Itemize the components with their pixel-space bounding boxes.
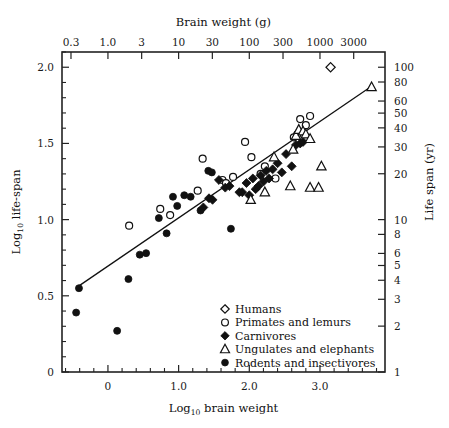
- data-point: [125, 276, 132, 283]
- right-tick-label-14: 1: [394, 366, 401, 378]
- top-tick-label-5: 100: [239, 36, 259, 48]
- data-point: [260, 187, 269, 196]
- x-tick-label-1: 1.0: [170, 380, 187, 392]
- data-point: [287, 162, 296, 171]
- legend-marker-ungulates: [220, 344, 229, 352]
- right-tick-label-12: 3: [394, 293, 401, 305]
- right-tick-label-9: 6: [394, 247, 401, 259]
- legend-marker-primates: [222, 319, 229, 326]
- right-tick-label-11: 4: [394, 274, 401, 286]
- top-tick-label-4: 30: [206, 36, 219, 48]
- x-tick-label-2: 2.0: [241, 380, 258, 392]
- right-tick-label-0: 100: [394, 61, 414, 73]
- right-tick-label-4: 40: [394, 122, 407, 134]
- legend-item-humans[interactable]: Humans: [221, 303, 282, 316]
- y-tick-label-4: 2.0: [37, 61, 54, 73]
- legend-item-primates[interactable]: Primates and lemurs: [222, 316, 352, 329]
- right-tick-label-5: 30: [394, 141, 407, 153]
- y-axis-left: 00.51.01.52.0: [37, 52, 69, 378]
- data-point: [199, 155, 206, 162]
- data-point: [297, 116, 304, 123]
- legend-marker-rodents: [222, 359, 229, 366]
- right-axis-title-text: Life span (yr): [422, 143, 436, 221]
- right-tick-label-8: 8: [394, 228, 401, 240]
- top-axis-title: Brain weight (g): [176, 15, 271, 29]
- data-point: [367, 82, 376, 91]
- legend-label-rodents: Rodents and insectivores: [235, 357, 376, 370]
- right-tick-label-2: 60: [394, 95, 407, 107]
- data-point: [75, 285, 82, 292]
- y-axis-right: 100806050403020108654321: [378, 61, 414, 378]
- top-tick-label-0: 0.3: [63, 36, 80, 48]
- data-point: [248, 154, 255, 161]
- right-tick-label-6: 20: [394, 168, 407, 180]
- data-point: [187, 193, 194, 200]
- data-point: [169, 193, 176, 200]
- data-point: [227, 225, 234, 232]
- top-tick-label-6: 300: [273, 36, 293, 48]
- data-point: [114, 327, 121, 334]
- x-tick-label-0: 0: [105, 380, 112, 392]
- top-tick-label-2: 3: [138, 36, 145, 48]
- data-point: [181, 192, 188, 199]
- data-point: [157, 205, 164, 212]
- x-axis-title-text: Log10 brain weight: [169, 401, 279, 417]
- legend-item-ungulates[interactable]: Ungulates and elephants: [220, 343, 374, 356]
- data-point: [126, 222, 133, 229]
- right-tick-label-10: 5: [394, 259, 401, 271]
- scatter-plot: 01.02.03.0Log10 brain weight0.31.0310301…: [0, 0, 449, 428]
- top-tick-label-1: 1.0: [100, 36, 117, 48]
- series-humans: [326, 63, 335, 72]
- right-tick-label-13: 2: [394, 320, 401, 332]
- right-tick-label-7: 10: [394, 214, 407, 226]
- y-axis-title: Log10 life-span: [9, 169, 25, 255]
- y-tick-label-1: 0.5: [37, 290, 54, 302]
- top-tick-label-3: 10: [172, 36, 185, 48]
- data-point: [326, 63, 335, 72]
- legend-label-carnivores: Carnivores: [235, 330, 296, 343]
- legend-item-rodents[interactable]: Rodents and insectivores: [222, 357, 376, 370]
- data-point: [317, 161, 326, 170]
- legend: HumansPrimates and lemursCarnivoresUngul…: [220, 303, 375, 370]
- data-point: [208, 169, 215, 176]
- legend-label-humans: Humans: [235, 303, 282, 316]
- data-point: [143, 250, 150, 257]
- y-tick-label-2: 1.0: [37, 214, 54, 226]
- legend-marker-carnivores: [221, 332, 229, 340]
- right-tick-label-1: 80: [394, 76, 407, 88]
- data-point: [73, 309, 80, 316]
- top-tick-label-8: 3000: [340, 36, 367, 48]
- y-axis-title-text: Log10 life-span: [9, 169, 25, 255]
- data-point: [136, 251, 143, 258]
- data-point: [277, 168, 286, 177]
- data-point: [307, 113, 314, 120]
- data-point: [230, 173, 237, 180]
- data-point: [163, 230, 170, 237]
- figure-container: 01.02.03.0Log10 brain weight0.31.0310301…: [0, 0, 449, 428]
- data-point: [242, 138, 249, 145]
- legend-label-ungulates: Ungulates and elephants: [235, 343, 375, 356]
- data-point: [286, 181, 295, 190]
- x-axis-title: Log10 brain weight: [169, 401, 279, 417]
- y-tick-label-3: 1.5: [37, 137, 54, 149]
- series-primates-and-lemurs: [126, 113, 314, 230]
- top-tick-label-7: 1000: [307, 36, 334, 48]
- series-ungulates-and-elephants: [246, 82, 376, 203]
- data-point: [167, 212, 174, 219]
- x-tick-label-3: 3.0: [312, 380, 329, 392]
- legend-item-carnivores[interactable]: Carnivores: [221, 330, 297, 343]
- right-tick-label-3: 50: [394, 107, 407, 119]
- data-point: [194, 187, 201, 194]
- data-point: [197, 207, 204, 214]
- right-axis-title: Life span (yr): [422, 143, 436, 221]
- y-tick-label-0: 0: [47, 366, 54, 378]
- series-rodents-and-insectivores: [73, 167, 235, 334]
- data-point: [174, 202, 181, 209]
- data-point: [155, 215, 162, 222]
- data-point: [314, 183, 323, 192]
- data-point: [305, 183, 314, 192]
- legend-label-primates: Primates and lemurs: [235, 316, 351, 329]
- legend-marker-humans: [221, 305, 229, 313]
- data-point: [269, 152, 278, 161]
